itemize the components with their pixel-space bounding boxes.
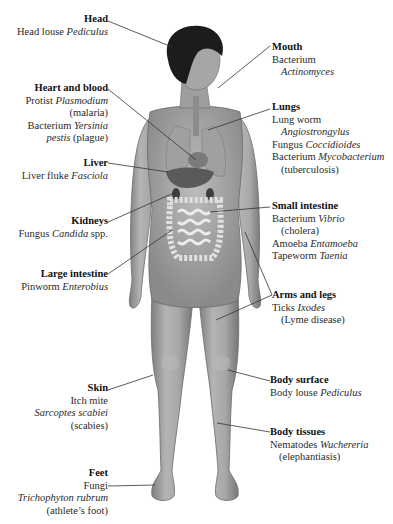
label-arms-and-legs: Arms and legs Ticks Ixodes (Lyme disease…: [272, 289, 345, 327]
torso: [147, 106, 242, 308]
label-line: Itch mite: [35, 395, 108, 408]
label-line: (athlete’s foot): [18, 505, 108, 518]
label-title: Heart and blood: [25, 82, 108, 95]
label-skin: Skin Itch mite Sarcoptes scabiei (scabie…: [35, 382, 108, 432]
label-line: (elephantiasis): [270, 451, 368, 464]
label-line: Tapeworm Taenia: [272, 250, 358, 263]
label-line: Lung worm: [272, 114, 384, 127]
label-title: Feet: [18, 467, 108, 480]
label-line: Actinomyces: [272, 66, 334, 79]
label-line: Bacterium Mycobacterium: [272, 151, 384, 164]
trachea: [193, 96, 199, 136]
label-line: Pinworm Enterobius: [21, 281, 108, 294]
label-body-tissues: Body tissues Nematodes Wuchereria (eleph…: [270, 426, 368, 464]
label-line: Liver fluke Fasciola: [22, 170, 108, 183]
label-line: Trichophyton rubrum: [18, 492, 108, 505]
label-line: Protist Plasmodium: [25, 95, 108, 108]
label-title: Arms and legs: [272, 289, 345, 302]
label-title: Large intestine: [21, 268, 108, 281]
label-title: Body surface: [270, 374, 362, 387]
label-line: Head louse Pediculus: [17, 26, 108, 39]
label-line: Bacterium: [272, 54, 334, 67]
label-mouth: Mouth Bacterium Actinomyces: [272, 41, 334, 79]
heart-organ: [188, 152, 208, 168]
legs: [151, 292, 239, 501]
label-title: Small intestine: [272, 200, 358, 213]
label-line: Fungus Candida spp.: [18, 228, 108, 241]
label-title: Kidneys: [18, 215, 108, 228]
label-line: Sarcoptes scabiei: [35, 407, 108, 420]
left-knee: [161, 355, 179, 371]
label-line: Amoeba Entamoeba: [272, 238, 358, 251]
label-line: Angiostrongylus: [272, 126, 384, 139]
label-line: Ticks Ixodes: [272, 302, 345, 315]
label-large-intestine: Large intestine Pinworm Enterobius: [21, 268, 108, 293]
label-title: Liver: [22, 157, 108, 170]
label-heart-and-blood: Heart and blood Protist Plasmodium (mala…: [25, 82, 108, 145]
label-title: Skin: [35, 382, 108, 395]
label-feet: Feet Fungi Trichophyton rubrum (athlete’…: [18, 467, 108, 517]
label-line: Nematodes Wuchereria: [270, 439, 368, 452]
label-line: (scabies): [35, 420, 108, 433]
label-kidneys: Kidneys Fungus Candida spp.: [18, 215, 108, 240]
label-line: Bacterium Yersinia: [25, 120, 108, 133]
label-liver: Liver Liver fluke Fasciola: [22, 157, 108, 182]
label-line: pestis (plague): [25, 132, 108, 145]
label-title: Lungs: [272, 101, 384, 114]
label-head: Head Head louse Pediculus: [17, 13, 108, 38]
label-line: (malaria): [25, 107, 108, 120]
label-lungs: Lungs Lung worm Angiostrongylus Fungus C…: [272, 101, 384, 177]
leader-feet: [108, 485, 155, 486]
leader-head: [108, 21, 172, 47]
label-title: Mouth: [272, 41, 334, 54]
label-line: Fungus Coccidioides: [272, 139, 384, 152]
label-line: (tuberculosis): [272, 164, 384, 177]
label-title: Body tissues: [270, 426, 368, 439]
label-line: Body louse Pediculus: [270, 387, 362, 400]
label-small-intestine: Small intestine Bacterium Vibrio (choler…: [272, 200, 358, 263]
label-line: Fungi: [18, 480, 108, 493]
label-line: (cholera): [272, 225, 358, 238]
label-line: (Lyme disease): [272, 314, 345, 327]
leader-mouth: [218, 46, 270, 88]
label-line: Bacterium Vibrio: [272, 213, 358, 226]
label-body-surface: Body surface Body louse Pediculus: [270, 374, 362, 399]
leader-skin: [108, 375, 153, 390]
label-title: Head: [17, 13, 108, 26]
right-knee: [212, 355, 230, 371]
